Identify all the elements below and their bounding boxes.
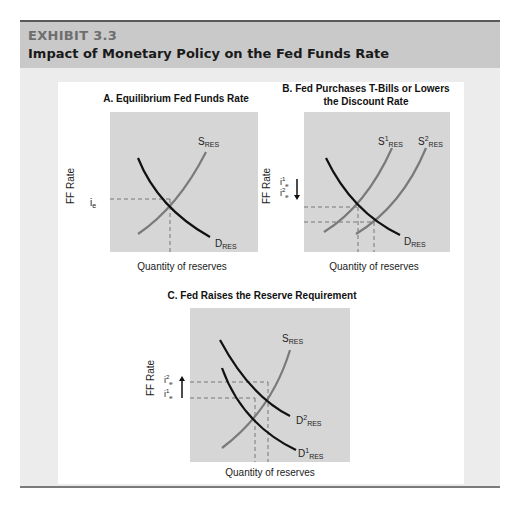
- panel-a-xlabel: Quantity of reserves: [137, 261, 226, 272]
- panel-a-equilibrium: A. Equilibrium Fed Funds Rate FF Rate ie…: [58, 82, 258, 282]
- panel-b-ylabel: FF Rate: [261, 167, 272, 204]
- panel-c-plot-area: [190, 308, 350, 462]
- panel-b-title-line2: the Discount Rate: [323, 96, 408, 107]
- panel-b-down-arrowhead: [294, 195, 300, 200]
- panel-a-title: A. Equilibrium Fed Funds Rate: [103, 93, 249, 104]
- panel-c-title: C. Fed Raises the Reserve Requirement: [168, 290, 358, 301]
- panel-c-up-arrowhead: [179, 376, 185, 381]
- exhibit-frame: EXHIBIT 3.3 Impact of Monetary Policy on…: [20, 20, 500, 488]
- exhibit-header: EXHIBIT 3.3 Impact of Monetary Policy on…: [20, 22, 500, 68]
- panel-a-plot-area: [110, 112, 258, 252]
- panel-c-rate1-label: i1e: [164, 388, 173, 400]
- exhibit-title: Impact of Monetary Policy on the Fed Fun…: [28, 46, 389, 61]
- panel-b-title-line1: B. Fed Purchases T-Bills or Lowers: [282, 83, 450, 94]
- charts-card: A. Equilibrium Fed Funds Rate FF Rate ie…: [58, 82, 464, 484]
- panel-b-supply-increase: B. Fed Purchases T-Bills or Lowers the D…: [258, 82, 464, 282]
- panel-c-rate2-label: i2e: [164, 374, 173, 386]
- panel-c-ylabel: FF Rate: [145, 359, 156, 396]
- panel-b-rate2-label: i2e: [280, 187, 289, 199]
- panel-a-rate-label: ie: [90, 197, 96, 209]
- panel-a-ylabel: FF Rate: [65, 167, 76, 204]
- panel-c-reserve-requirement: C. Fed Raises the Reserve Requirement FF…: [138, 288, 378, 484]
- panel-b-xlabel: Quantity of reserves: [329, 261, 418, 272]
- panel-c-xlabel: Quantity of reserves: [225, 467, 314, 478]
- exhibit-label: EXHIBIT 3.3: [28, 28, 117, 43]
